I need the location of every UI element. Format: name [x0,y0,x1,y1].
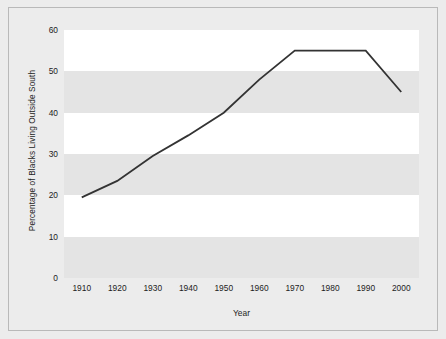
x-tick-label: 1990 [356,283,375,293]
x-tick-label: 1950 [214,283,233,293]
y-tick-label: 20 [49,190,58,200]
x-tick-label: 1980 [321,283,340,293]
y-tick-label: 0 [53,273,58,283]
y-tick-label: 50 [49,66,58,76]
y-axis-title: Percentage of Blacks Living Outside Sout… [28,51,37,251]
y-tick-label: 40 [49,108,58,118]
x-tick-label: 1960 [250,283,269,293]
x-tick-label: 1930 [143,283,162,293]
x-tick-label: 1940 [179,283,198,293]
y-tick-label: 60 [49,25,58,35]
y-tick-label: 10 [49,232,58,242]
x-tick-label: 1910 [72,283,91,293]
figure: Percentage of Blacks Living Outside Sout… [0,0,446,339]
x-tick-label: 1920 [108,283,127,293]
x-axis-title: Year [64,308,419,318]
figure-border: Percentage of Blacks Living Outside Sout… [8,7,438,331]
y-tick-label: 30 [49,149,58,159]
series-polyline [82,51,402,198]
x-tick-label: 1970 [285,283,304,293]
line-series [64,30,419,278]
plot-area: 0102030405060 19101920193019401950196019… [64,30,419,278]
x-tick-label: 2000 [392,283,411,293]
